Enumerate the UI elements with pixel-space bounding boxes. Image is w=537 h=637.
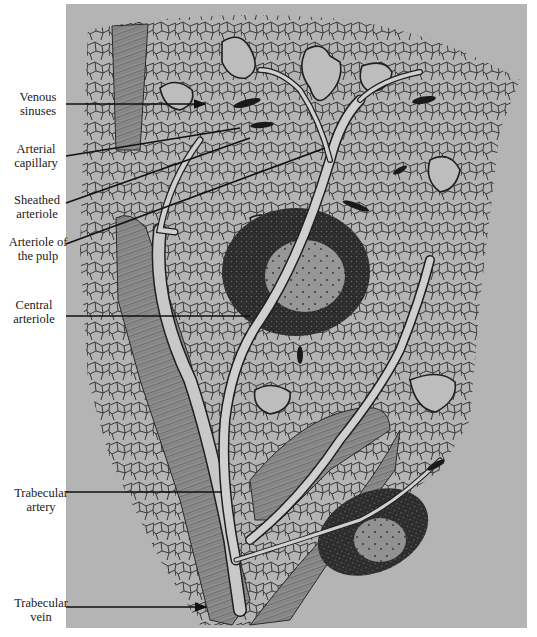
label-line: artery bbox=[8, 500, 74, 514]
label-line: vein bbox=[8, 610, 74, 624]
label-line: Central bbox=[6, 298, 62, 312]
label-trabecular-artery: Trabecular artery bbox=[8, 486, 74, 514]
label-sheathed-arteriole: Sheathed arteriole bbox=[6, 193, 68, 221]
label-line: Arteriole of bbox=[4, 235, 72, 249]
label-line: Arterial bbox=[6, 142, 66, 156]
label-line: Trabecular bbox=[8, 486, 74, 500]
label-line: capillary bbox=[6, 156, 66, 170]
spleen-circulation-diagram bbox=[0, 0, 537, 637]
label-line: Sheathed bbox=[6, 193, 68, 207]
label-arteriole-of-the-pulp: Arteriole of the pulp bbox=[4, 235, 72, 263]
label-venous-sinuses: Venous sinuses bbox=[10, 90, 66, 118]
label-trabecular-vein: Trabecular vein bbox=[8, 596, 74, 624]
label-line: sinuses bbox=[10, 104, 66, 118]
label-central-arteriole: Central arteriole bbox=[6, 298, 62, 326]
germinal-center-small bbox=[354, 518, 406, 562]
label-line: arteriole bbox=[6, 207, 68, 221]
label-arterial-capillary: Arterial capillary bbox=[6, 142, 66, 170]
label-line: the pulp bbox=[4, 249, 72, 263]
label-line: arteriole bbox=[6, 312, 62, 326]
label-line: Trabecular bbox=[8, 596, 74, 610]
label-line: Venous bbox=[10, 90, 66, 104]
